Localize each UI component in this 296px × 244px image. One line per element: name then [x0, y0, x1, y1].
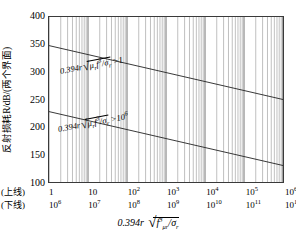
- x-tick-upper: 10: [88, 186, 97, 199]
- y-tick-label: 400: [15, 11, 48, 21]
- x-tick-exponent: 6: [294, 185, 296, 192]
- x-tick-lower: 1011: [246, 199, 261, 212]
- x-tick-base: 10: [246, 200, 255, 210]
- x-tick-exponent: 6: [58, 198, 61, 205]
- x-tick-exponent: 4: [215, 185, 218, 192]
- x-tick-base: 10: [88, 187, 97, 197]
- x-tick-base: 10: [285, 200, 294, 210]
- x-tick-exponent: 11: [255, 198, 261, 205]
- x-tick-base: 10: [128, 187, 137, 197]
- x-tick-base: 10: [49, 200, 58, 210]
- x-tick-lower: 1010: [206, 199, 222, 212]
- y-tick-label: 300: [15, 67, 48, 77]
- x-tick-base: 10: [167, 187, 176, 197]
- x-tick-base: 10: [128, 200, 137, 210]
- y-tick-label: 250: [15, 95, 48, 105]
- x-axis-row-lower-label: (下线): [1, 199, 25, 212]
- x-axis-row-upper: (上线) 110102103104105106: [0, 186, 296, 199]
- x-tick-base: 10: [206, 187, 215, 197]
- x-axis-row-upper-label: (上线): [1, 186, 25, 199]
- y-axis-label: 反射损耗R/dB/(两个界面): [0, 14, 16, 186]
- x-tick-exponent: 9: [176, 198, 179, 205]
- x-tick-base: 10: [167, 200, 176, 210]
- x-tick-lower: 107: [88, 199, 100, 212]
- x-tick-upper: 1: [49, 186, 54, 199]
- x-tick-lower: 1012: [285, 199, 296, 212]
- y-tick-label: 350: [15, 39, 48, 49]
- x-tick-exponent: 5: [255, 185, 258, 192]
- x-tick-base: 10: [285, 187, 294, 197]
- x-tick-base: 10: [206, 200, 215, 210]
- x-tick-exponent: 12: [294, 198, 296, 205]
- x-tick-exponent: 3: [176, 185, 179, 192]
- plot-svg: [49, 17, 283, 182]
- x-tick-lower: 108: [128, 199, 140, 212]
- x-tick-exponent: 10: [215, 198, 222, 205]
- y-tick-label: 150: [15, 150, 48, 160]
- plot-area: [48, 16, 284, 183]
- x-tick-base: 10: [88, 200, 97, 210]
- x-tick-lower: 109: [167, 199, 179, 212]
- reflection-loss-chart: 反射损耗R/dB/(两个界面) 400 350 300 250 200 150 …: [0, 0, 296, 244]
- x-label-coef: 0.394r: [117, 217, 143, 228]
- y-axis-label-text: 反射损耗R/dB/(两个界面): [3, 47, 13, 153]
- x-axis-row-lower: (下线) 106107108109101010111012: [0, 199, 296, 212]
- x-tick-base: 1: [49, 187, 54, 197]
- x-tick-exponent: 8: [137, 198, 140, 205]
- x-tick-exponent: 2: [137, 185, 140, 192]
- x-tick-lower: 106: [49, 199, 61, 212]
- x-label-sigma-sub: r: [176, 223, 179, 230]
- y-tick-label: 200: [15, 122, 48, 132]
- x-axis-label: 0.394r √f3μr/σr: [0, 217, 296, 228]
- x-tick-base: 10: [246, 187, 255, 197]
- x-tick-exponent: 7: [97, 198, 100, 205]
